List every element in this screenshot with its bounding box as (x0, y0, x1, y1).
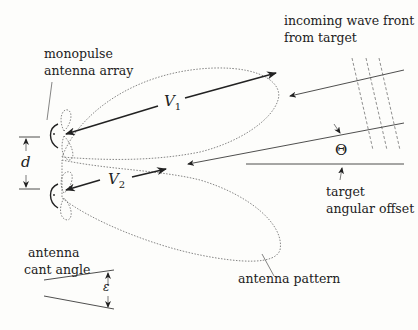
antenna-pattern-label: antenna pattern (238, 270, 340, 287)
v1-symbol: V1 (164, 92, 181, 112)
antenna-element-lower (51, 184, 59, 208)
v2-symbol: V2 (108, 170, 125, 190)
monopulse-label-1: monopulse (44, 45, 113, 62)
cant-angle-label-2: cant angle (24, 261, 90, 278)
incoming-wave-label-1: incoming wave front (284, 12, 414, 29)
theta-symbol: Θ (335, 141, 347, 159)
incoming-wave-label-2: from target (284, 29, 357, 46)
cant-angle-label-1: antenna (28, 244, 79, 261)
target-label-1: target (326, 183, 365, 200)
antenna-element-upper (51, 124, 59, 148)
monopulse-label-2: antenna array (44, 62, 133, 79)
lower-lobe (62, 160, 280, 261)
epsilon-symbol: ε (103, 280, 109, 294)
target-label-2: angular offset (326, 200, 414, 217)
d-symbol: d (21, 153, 31, 171)
